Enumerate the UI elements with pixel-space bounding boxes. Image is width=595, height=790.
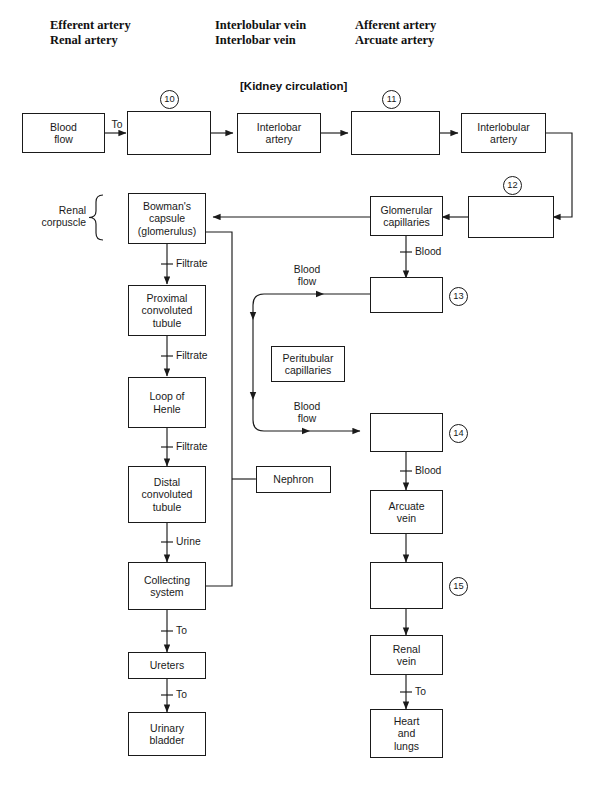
header-column-2: Interlobular vein Interlobar vein bbox=[215, 18, 306, 47]
renal-corpuscle-brace bbox=[89, 195, 103, 240]
diagram-title: [Kidney circulation] bbox=[240, 80, 347, 92]
node-loop-of-henle-label: Loop ofHenle bbox=[146, 390, 187, 414]
node-blood-flow: Bloodflow bbox=[22, 113, 105, 153]
header-column-2-line2: Interlobar vein bbox=[215, 33, 306, 48]
node-blood-flow-label: Bloodflow bbox=[47, 121, 80, 145]
node-bowmans-capsule-label: Bowman'scapsule(glomerulus) bbox=[135, 200, 199, 237]
node-glomerular-capillaries: Glomerularcapillaries bbox=[370, 196, 443, 236]
callout-14: 14 bbox=[449, 424, 468, 443]
callout-13: 13 bbox=[449, 287, 468, 306]
node-bowmans-capsule: Bowman'scapsule(glomerulus) bbox=[128, 193, 206, 244]
node-collecting-system: Collectingsystem bbox=[128, 562, 206, 610]
node-loop-of-henle: Loop ofHenle bbox=[128, 377, 206, 428]
node-collecting-system-label: Collectingsystem bbox=[141, 574, 193, 598]
edge-label-filtrate-3: Filtrate bbox=[176, 441, 207, 453]
callout-15: 15 bbox=[449, 577, 468, 596]
node-renal-vein-label: Renalvein bbox=[390, 643, 423, 667]
callout-10: 10 bbox=[160, 90, 179, 109]
edge-label-to-box10: To bbox=[104, 119, 130, 131]
node-heart-and-lungs-label: Heartandlungs bbox=[391, 715, 423, 752]
node-arcuate-vein-label: Arcuatevein bbox=[385, 500, 427, 524]
node-box-10 bbox=[127, 111, 211, 155]
header-column-2-line1: Interlobular vein bbox=[215, 18, 306, 33]
node-distal-convoluted-tubule-label: Distalconvolutedtubule bbox=[139, 476, 196, 513]
node-box-15 bbox=[370, 562, 443, 609]
header-column-1-line1: Efferent artery bbox=[50, 18, 131, 33]
node-renal-vein: Renalvein bbox=[370, 635, 443, 675]
node-proximal-convoluted-tubule-label: Proximalconvolutedtubule bbox=[139, 292, 196, 329]
edge-label-blood-box14: Blood bbox=[415, 465, 441, 477]
node-box-13 bbox=[370, 277, 443, 313]
node-proximal-convoluted-tubule: Proximalconvolutedtubule bbox=[128, 285, 206, 336]
node-interlobular-artery-label: Interlobularartery bbox=[474, 121, 533, 145]
node-nephron: Nephron bbox=[256, 466, 331, 493]
node-glomerular-capillaries-label: Glomerularcapillaries bbox=[378, 204, 436, 228]
node-urinary-bladder: Urinarybladder bbox=[128, 712, 206, 756]
node-box-14 bbox=[370, 413, 443, 452]
node-peritubular-capillaries: Peritubularcapillaries bbox=[271, 346, 345, 382]
edge-label-filtrate-1: Filtrate bbox=[176, 258, 207, 270]
callout-11: 11 bbox=[382, 90, 401, 109]
node-distal-convoluted-tubule: Distalconvolutedtubule bbox=[128, 466, 206, 523]
node-interlobar-artery-label: Interlobarartery bbox=[254, 121, 304, 145]
header-column-1-line2: Renal artery bbox=[50, 33, 131, 48]
header-column-3-line1: Afferent artery bbox=[355, 18, 436, 33]
edge-label-to-ureters: To bbox=[176, 625, 187, 637]
edge-label-urine: Urine bbox=[176, 536, 201, 548]
node-box-11 bbox=[351, 111, 440, 155]
node-interlobar-artery: Interlobarartery bbox=[237, 113, 321, 153]
header-column-3-line2: Arcuate artery bbox=[355, 33, 436, 48]
edge-label-blood-glomerular: Blood bbox=[415, 246, 441, 258]
edge-label-to-bladder: To bbox=[176, 689, 187, 701]
node-ureters-label: Ureters bbox=[147, 659, 187, 671]
node-heart-and-lungs: Heartandlungs bbox=[370, 709, 443, 758]
node-peritubular-capillaries-label: Peritubularcapillaries bbox=[280, 352, 337, 376]
node-arcuate-vein: Arcuatevein bbox=[370, 490, 443, 534]
header-column-3: Afferent artery Arcuate artery bbox=[355, 18, 436, 47]
edge-label-filtrate-2: Filtrate bbox=[176, 350, 207, 362]
header-column-1: Efferent artery Renal artery bbox=[50, 18, 131, 47]
node-urinary-bladder-label: Urinarybladder bbox=[146, 722, 187, 746]
renal-corpuscle-label: Renalcorpuscle bbox=[18, 205, 86, 229]
node-box-12 bbox=[468, 196, 554, 238]
node-interlobular-artery: Interlobularartery bbox=[461, 113, 546, 153]
kidney-circulation-diagram: Efferent artery Renal artery Interlobula… bbox=[0, 0, 595, 790]
edge-label-blood-flow-lower: Bloodflow bbox=[284, 401, 330, 424]
node-nephron-label: Nephron bbox=[270, 473, 316, 485]
edge-label-to-heart: To bbox=[415, 686, 426, 698]
node-ureters: Ureters bbox=[128, 652, 206, 679]
edge-label-blood-flow-upper: Bloodflow bbox=[284, 264, 330, 287]
callout-12: 12 bbox=[503, 176, 522, 195]
